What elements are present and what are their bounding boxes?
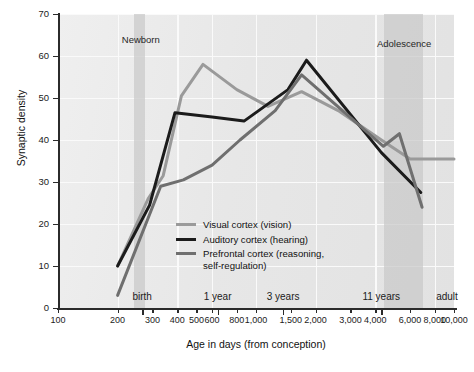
era-band-label-adolescence: Adolescence <box>377 38 431 49</box>
x-tick <box>375 309 376 313</box>
era-marker-birth: birth <box>132 291 151 302</box>
y-tick <box>53 98 58 99</box>
x-tick <box>118 309 119 313</box>
x-tick <box>454 309 455 313</box>
chart-figure: NewbornAdolescence 010203040506070 10020… <box>0 0 474 372</box>
gridline-v <box>375 14 376 308</box>
legend-swatch <box>176 223 196 226</box>
y-tick-label: 10 <box>23 260 49 271</box>
legend-label: Auditory cortex (hearing) <box>203 234 308 246</box>
legend-item-2[interactable]: Prefrontal cortex (reasoning,self-regula… <box>176 248 324 271</box>
era-tick <box>283 309 284 315</box>
x-tick <box>196 309 197 313</box>
x-tick-label: 3,000 <box>339 315 362 325</box>
y-tick <box>53 140 58 141</box>
x-tick <box>177 309 178 313</box>
gridline-v <box>435 14 436 308</box>
legend-label: Visual cortex (vision) <box>203 219 291 231</box>
era-tick <box>142 309 143 315</box>
gridline-v <box>118 14 119 308</box>
legend-item-1[interactable]: Auditory cortex (hearing) <box>176 234 324 246</box>
x-tick <box>212 309 213 313</box>
era-tick <box>381 309 382 315</box>
x-tick-label: 2,000 <box>304 315 327 325</box>
era-band-newborn <box>134 14 145 308</box>
x-tick-label: 800 <box>229 315 244 325</box>
y-axis-line <box>58 13 60 309</box>
x-tick <box>237 309 238 313</box>
y-tick-label: 70 <box>23 8 49 19</box>
x-tick-label: 400 <box>170 315 185 325</box>
x-tick-label: 1,000 <box>245 315 268 325</box>
era-band-adolescence <box>384 14 423 308</box>
y-axis-title: Synaptic density <box>15 63 27 193</box>
x-tick-label: 200 <box>110 315 125 325</box>
x-tick-label: 1,500 <box>280 315 303 325</box>
x-tick-label: 100 <box>50 315 65 325</box>
x-axis-title: Age in days (from conception) <box>58 338 454 350</box>
x-tick-label: 10,000 <box>440 315 468 325</box>
era-band-label-newborn: Newborn <box>122 34 160 45</box>
x-tick <box>316 309 317 313</box>
y-tick <box>53 182 58 183</box>
legend-item-0[interactable]: Visual cortex (vision) <box>176 219 324 231</box>
x-tick <box>435 309 436 313</box>
era-marker-3-years: 3 years <box>267 291 300 302</box>
x-tick <box>58 309 59 313</box>
legend-swatch <box>176 252 196 255</box>
x-tick <box>350 309 351 313</box>
era-marker-1-year: 1 year <box>204 291 232 302</box>
era-tick <box>218 309 219 315</box>
era-marker-adult: adult <box>436 291 458 302</box>
x-tick <box>152 309 153 313</box>
y-tick <box>53 56 58 57</box>
legend-swatch <box>176 238 196 241</box>
x-tick <box>291 309 292 313</box>
x-tick-label: 300 <box>145 315 160 325</box>
y-tick <box>53 14 58 15</box>
x-tick <box>410 309 411 313</box>
y-tick <box>53 224 58 225</box>
x-tick-label: 500 <box>189 315 204 325</box>
legend-label: Prefrontal cortex (reasoning,self-regula… <box>203 248 324 271</box>
y-tick-label: 0 <box>23 302 49 313</box>
y-tick <box>53 266 58 267</box>
x-tick-label: 600 <box>205 315 220 325</box>
x-tick-label: 4,000 <box>364 315 387 325</box>
x-tick-label: 6,000 <box>399 315 422 325</box>
era-marker-11-years: 11 years <box>362 291 400 302</box>
x-tick <box>256 309 257 313</box>
chart-legend: Visual cortex (vision)Auditory cortex (h… <box>176 219 324 274</box>
y-tick-label: 60 <box>23 50 49 61</box>
y-tick-label: 20 <box>23 218 49 229</box>
